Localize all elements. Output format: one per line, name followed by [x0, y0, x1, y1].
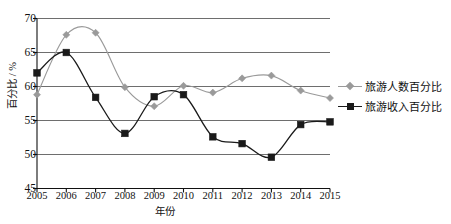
square-marker — [338, 100, 362, 112]
data-point-diamond — [239, 75, 246, 82]
x-axis-title: 年份 — [0, 203, 330, 218]
legend-label: 旅游收入百分比 — [365, 98, 442, 114]
tourism-percentage-line-chart: 百分比 / % 706560555045 2005200620072008200… — [0, 0, 451, 224]
data-point-square — [239, 140, 246, 147]
data-point-square — [34, 70, 41, 77]
gridlines — [37, 19, 330, 189]
data-point-diamond — [151, 103, 158, 110]
series-2 — [34, 49, 334, 160]
x-tick-2015: 2015 — [313, 190, 347, 202]
legend-item-2[interactable]: 旅游收入百分比 — [338, 96, 451, 116]
data-point-square — [122, 130, 129, 137]
data-point-square — [210, 134, 217, 141]
axis-lines — [33, 19, 330, 193]
data-point-square — [151, 93, 158, 100]
data-point-square — [92, 94, 99, 101]
data-point-square — [180, 91, 187, 98]
data-point-square — [297, 121, 304, 128]
series-line-2 — [37, 52, 330, 158]
diamond-marker — [338, 80, 362, 92]
data-point-diamond — [297, 87, 304, 94]
data-point-square — [63, 49, 70, 56]
legend-marker — [346, 82, 354, 90]
data-point-diamond — [209, 89, 216, 96]
data-point-diamond — [327, 95, 334, 102]
data-point-diamond — [268, 72, 275, 79]
data-point-diamond — [180, 82, 187, 89]
legend-label: 旅游人数百分比 — [365, 78, 442, 94]
chart-legend: 旅游人数百分比旅游收入百分比 — [338, 76, 451, 116]
legend-item-1[interactable]: 旅游人数百分比 — [338, 76, 451, 96]
legend-marker — [347, 103, 354, 110]
data-point-diamond — [34, 91, 41, 98]
data-point-square — [327, 119, 334, 126]
data-point-square — [268, 154, 275, 161]
